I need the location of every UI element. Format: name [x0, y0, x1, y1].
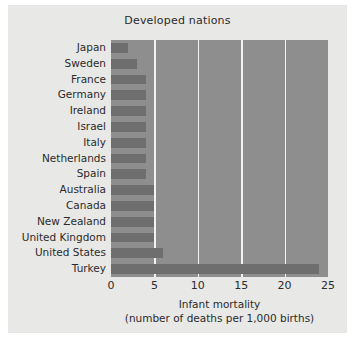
bar-row [111, 90, 328, 100]
y-axis-label: Sweden [8, 57, 106, 69]
bar [111, 154, 146, 164]
y-axis-label: Germany [8, 88, 106, 100]
x-axis-tick-labels: 0510152025 [8, 279, 347, 295]
y-axis-label: Netherlands [8, 152, 106, 164]
bar [111, 264, 319, 274]
x-tick-label: 10 [191, 279, 205, 292]
y-axis-label: Turkey [8, 262, 106, 274]
plot-area [111, 40, 328, 277]
bar-row [111, 106, 328, 116]
y-axis-label: Ireland [8, 104, 106, 116]
bar [111, 43, 128, 53]
chart-figure: Developed nations JapanSwedenFranceGerma… [8, 5, 347, 333]
x-axis-label-line2: (number of deaths per 1,000 births) [111, 311, 328, 325]
x-tick-label: 15 [234, 279, 248, 292]
y-axis-label: France [8, 73, 106, 85]
bar-row [111, 138, 328, 148]
bar [111, 201, 154, 211]
bar [111, 75, 146, 85]
y-axis-label: United States [8, 246, 106, 258]
x-axis-label: Infant mortality (number of deaths per 1… [111, 297, 328, 325]
y-axis-label: Australia [8, 183, 106, 195]
bar-row [111, 43, 328, 53]
bar [111, 185, 154, 195]
y-axis-label: Israel [8, 120, 106, 132]
y-axis-label: New Zealand [8, 215, 106, 227]
x-tick-label: 25 [321, 279, 335, 292]
bar-row [111, 75, 328, 85]
y-axis-label: Canada [8, 199, 106, 211]
bar [111, 217, 154, 227]
bar [111, 233, 154, 243]
y-axis-label: Spain [8, 167, 106, 179]
bar-row [111, 122, 328, 132]
bar-row [111, 154, 328, 164]
bar-row [111, 201, 328, 211]
bar-row [111, 169, 328, 179]
bar-row [111, 264, 328, 274]
chart-title: Developed nations [8, 14, 347, 27]
x-axis-label-line1: Infant mortality [111, 297, 328, 311]
bar [111, 248, 163, 258]
bar [111, 59, 137, 69]
bar [111, 169, 146, 179]
bar-row [111, 59, 328, 69]
y-axis-label: Japan [8, 41, 106, 53]
y-axis-label: Italy [8, 136, 106, 148]
bar-row [111, 233, 328, 243]
bar-row [111, 185, 328, 195]
bar [111, 122, 146, 132]
y-axis-label: United Kingdom [8, 231, 106, 243]
bar [111, 106, 146, 116]
bar-row [111, 248, 328, 258]
x-tick-label: 5 [151, 279, 158, 292]
x-tick-label: 0 [108, 279, 115, 292]
x-tick-label: 20 [278, 279, 292, 292]
bar [111, 138, 146, 148]
y-axis-category-labels: JapanSwedenFranceGermanyIrelandIsraelIta… [8, 40, 106, 277]
bar [111, 90, 146, 100]
bar-row [111, 217, 328, 227]
